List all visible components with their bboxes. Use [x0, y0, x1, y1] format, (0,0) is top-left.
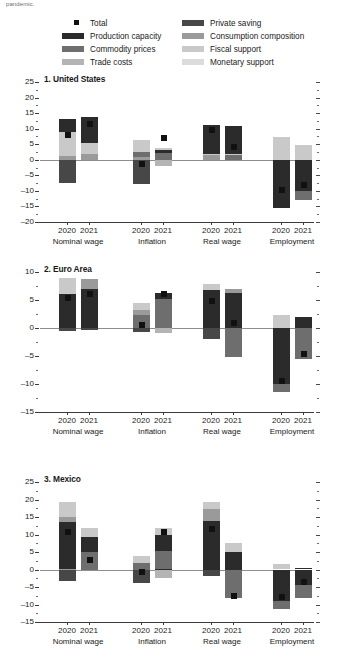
y-axis-tick-label: –15: [8, 202, 34, 210]
x-axis-line: [38, 622, 314, 623]
legend-item: Private saving: [182, 17, 304, 29]
total-marker: [139, 569, 145, 575]
y-axis-tick: [35, 206, 39, 207]
truncated-caption-text: pandemic.: [6, 0, 126, 10]
total-marker: [161, 291, 167, 297]
bar-segment: [155, 299, 172, 328]
right-axis-tick: [316, 482, 320, 483]
bar-stack[interactable]: [295, 272, 312, 412]
bar-stack[interactable]: [225, 82, 242, 222]
y-axis-tick: [35, 160, 39, 161]
y-axis-tick-label: 0: [8, 156, 34, 164]
total-marker: [279, 594, 285, 600]
bar-stack[interactable]: [59, 482, 76, 622]
bar-stack[interactable]: [133, 272, 150, 412]
legend-label: Monetary support: [210, 58, 274, 67]
x-axis-group-label: Employment: [247, 427, 337, 436]
y-axis-tick-label: 20: [8, 94, 34, 102]
total-marker: [279, 378, 285, 384]
y-axis-minor-tick: [36, 105, 38, 106]
y-axis-tick-label: 15: [8, 513, 34, 521]
right-axis-minor-tick: [317, 561, 319, 562]
total-marker: [301, 351, 307, 357]
right-axis-minor-tick: [317, 136, 319, 137]
bar-stack[interactable]: [155, 272, 172, 412]
y-axis-tick-label: 5: [8, 548, 34, 556]
bar-stack[interactable]: [273, 272, 290, 412]
right-axis-tick: [316, 272, 320, 273]
right-axis-minor-tick: [317, 526, 319, 527]
y-axis-tick-label: –5: [8, 352, 34, 360]
right-axis-tick: [316, 82, 320, 83]
bar-stack[interactable]: [225, 482, 242, 622]
y-axis-minor-tick: [36, 136, 38, 137]
right-axis-minor-tick: [317, 491, 319, 492]
bar-stack[interactable]: [81, 482, 98, 622]
bar-stack[interactable]: [59, 272, 76, 412]
total-marker: [231, 320, 237, 326]
y-axis-tick: [35, 129, 39, 130]
y-axis-minor-tick: [36, 508, 38, 509]
x-axis-tick: [281, 222, 282, 225]
legend-column-right: Private savingConsumption compositionFis…: [182, 17, 304, 69]
bar-segment: [203, 328, 220, 339]
panel-mexico: 3. Mexico –15–10–50510152025202020212020…: [0, 478, 352, 660]
bar-segment: [155, 328, 172, 333]
bar-stack[interactable]: [203, 482, 220, 622]
right-axis-tick: [316, 144, 320, 145]
bar-stack[interactable]: [133, 82, 150, 222]
x-axis-year-label: 2021: [288, 416, 318, 425]
panel-euro-area: 2. Euro Area –15–10–50510202020212020202…: [0, 268, 352, 440]
bar-stack[interactable]: [59, 82, 76, 222]
bar-stack[interactable]: [295, 82, 312, 222]
right-axis-minor-tick: [317, 90, 319, 91]
bar-stack[interactable]: [81, 272, 98, 412]
total-marker: [87, 557, 93, 563]
right-axis-minor-tick: [317, 183, 319, 184]
y-axis-tick: [35, 517, 39, 518]
bar-stack[interactable]: [203, 272, 220, 412]
bar-segment: [155, 153, 172, 160]
bar-stack[interactable]: [203, 82, 220, 222]
bar-stack[interactable]: [155, 482, 172, 622]
bar-stack[interactable]: [225, 272, 242, 412]
bar-segment: [225, 155, 242, 159]
legend-swatch: [62, 33, 84, 39]
y-axis-minor-tick: [36, 578, 38, 579]
x-axis-year-label: 2021: [148, 626, 178, 635]
x-axis-tick: [163, 622, 164, 625]
y-axis-minor-tick: [36, 342, 38, 343]
right-axis-minor-tick: [317, 214, 319, 215]
y-axis-minor-tick: [36, 314, 38, 315]
right-axis-minor-tick: [317, 342, 319, 343]
legend-item: Consumption composition: [182, 30, 304, 42]
right-axis-minor-tick: [317, 286, 319, 287]
bar-stack[interactable]: [155, 82, 172, 222]
bar-stack[interactable]: [273, 82, 290, 222]
y-axis-tick-label: –15: [8, 618, 34, 626]
bar-segment: [59, 570, 76, 582]
total-marker: [65, 295, 71, 301]
y-axis-tick: [35, 482, 39, 483]
y-axis-tick: [35, 113, 39, 114]
bar-stack[interactable]: [81, 82, 98, 222]
bar-stack[interactable]: [295, 482, 312, 622]
total-marker: [161, 529, 167, 535]
bar-segment: [295, 317, 312, 328]
y-axis-minor-tick: [36, 370, 38, 371]
x-axis-year-label: 2021: [148, 416, 178, 425]
bar-stack[interactable]: [273, 482, 290, 622]
bar-stack[interactable]: [133, 482, 150, 622]
y-axis-tick-label: 5: [8, 296, 34, 304]
total-marker: [209, 298, 215, 304]
legend-label: Total: [90, 19, 107, 28]
x-axis-tick: [89, 222, 90, 225]
right-axis-minor-tick: [317, 314, 319, 315]
legend-swatch: [62, 46, 84, 52]
x-axis-year-label: 2021: [218, 416, 248, 425]
x-axis-tick: [233, 622, 234, 625]
x-axis-year-label: 2021: [218, 626, 248, 635]
right-axis-tick: [316, 222, 320, 223]
legend-swatch-total-marker: [62, 20, 84, 26]
bar-segment: [273, 137, 290, 159]
